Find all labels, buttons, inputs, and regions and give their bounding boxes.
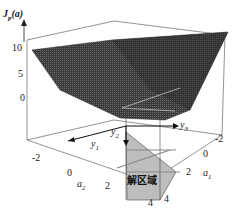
surface-plot	[0, 0, 237, 211]
vector-y1-label: y1	[91, 138, 99, 152]
a1-tick-m2: -2	[215, 133, 223, 144]
a2-tick-2: 2	[105, 180, 110, 191]
z-axis-label: Jp(a)	[3, 8, 23, 22]
z-tick-0: 0	[20, 92, 25, 103]
vector-y3-label: y3	[180, 119, 188, 133]
a1-tick-4: 4	[164, 193, 169, 204]
vector-y2-label: y2	[111, 126, 119, 140]
a1-tick-0: 0	[203, 148, 208, 159]
solution-region-label: 解区域	[127, 172, 157, 187]
a1-axis-label: a1	[203, 167, 212, 181]
z-tick-5: 5	[18, 68, 23, 79]
a2-axis-label: a2	[77, 178, 86, 192]
z-tick-10: 10	[12, 42, 22, 53]
solution-region	[126, 132, 176, 200]
a2-tick-0: 0	[67, 167, 72, 178]
a2-tick-m2: -2	[32, 152, 40, 163]
a1-tick-2: 2	[186, 166, 191, 177]
a2-tick-4: 4	[148, 197, 153, 208]
